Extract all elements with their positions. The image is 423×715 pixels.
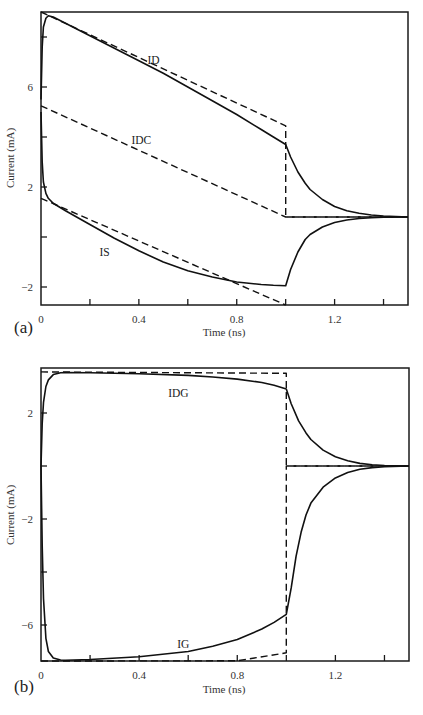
y-tick-label: 2: [28, 181, 34, 193]
y-tick-label: −2: [21, 281, 33, 293]
x-axis-title: Time (ns): [203, 326, 246, 339]
y-tick-label: −2: [21, 513, 33, 525]
y-axis-title: Current (mA): [4, 485, 17, 546]
data-series: [41, 12, 408, 305]
y-tick-label: 2: [28, 407, 34, 419]
chart-panel-a: 00.40.81.2−226 IDIDCIS Time (ns) Current…: [4, 12, 408, 339]
x-tick-label: 0.4: [132, 669, 146, 681]
x-tick-label: 1.2: [329, 669, 343, 681]
x-axis-title: Time (ns): [203, 683, 246, 696]
series-label-idc: IDC: [131, 134, 151, 146]
series-is: [41, 112, 408, 286]
x-tick-label: 0.8: [230, 669, 244, 681]
tick-labels: 00.40.81.2−226: [21, 81, 341, 325]
series-id: [41, 16, 408, 217]
series-is-ideal: [41, 198, 286, 305]
axis-ticks: [41, 413, 384, 661]
chart-panel-b: 00.40.81.2−6−22 IDGIG Time (ns) Current …: [4, 368, 409, 696]
figure-canvas: 00.40.81.2−226 IDIDCIS Time (ns) Current…: [0, 0, 423, 715]
series-label-id: ID: [147, 54, 159, 66]
x-tick-label: 0: [38, 669, 44, 681]
panel-label-b: (b): [14, 677, 34, 696]
series-label-is: IS: [99, 246, 109, 258]
plot-frame: [41, 368, 409, 661]
series-ig-ideal: [41, 466, 409, 661]
x-tick-label: 0.8: [230, 313, 244, 325]
series-label-ig: IG: [177, 638, 189, 650]
series-label-idg: IDG: [168, 387, 188, 399]
x-tick-label: 0.4: [132, 313, 146, 325]
series-ig: [41, 466, 409, 660]
y-axis-title: Current (mA): [4, 128, 17, 189]
series-idg-ideal: [41, 372, 409, 466]
series-idg: [41, 373, 409, 467]
data-series: [41, 372, 409, 661]
series-labels: IDGIG: [168, 387, 189, 649]
x-tick-label: 1.2: [328, 313, 342, 325]
axis-ticks: [41, 37, 384, 305]
plot-frame: [41, 12, 408, 305]
series-id-ideal: [41, 12, 408, 217]
y-tick-label: 6: [28, 81, 34, 93]
y-tick-label: −6: [21, 619, 33, 631]
x-tick-label: 0: [38, 313, 44, 325]
series-labels: IDIDCIS: [99, 54, 159, 259]
series-idc: [41, 106, 408, 217]
panel-label-a: (a): [14, 318, 33, 337]
